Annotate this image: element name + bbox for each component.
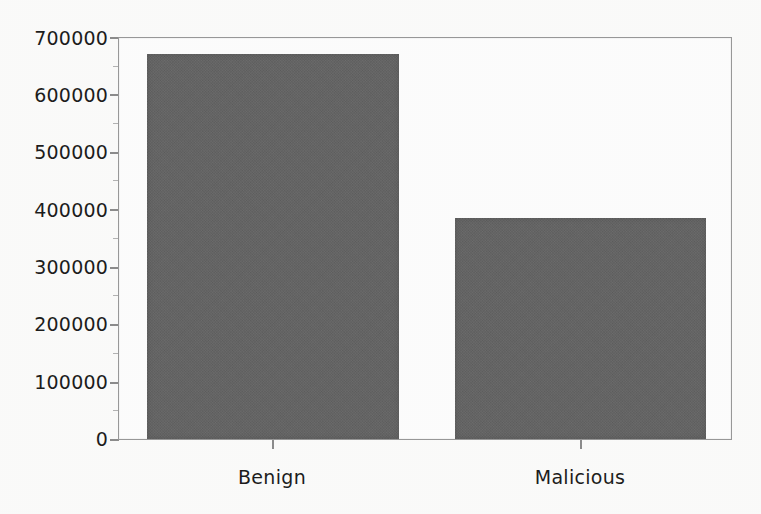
- x-tick-mark-malicious: [580, 440, 582, 449]
- y-tick-label-100000: 100000: [34, 371, 108, 393]
- y-tick-label-400000: 400000: [34, 199, 108, 221]
- bar-malicious: [455, 218, 706, 439]
- y-tick-label-500000: 500000: [34, 141, 108, 163]
- y-tick-label-700000: 700000: [34, 27, 108, 49]
- bar-chart-figure: 700000 600000 500000 400000 300000 20000…: [0, 0, 761, 514]
- y-tick-label-300000: 300000: [34, 256, 108, 278]
- bar-benign: [147, 54, 399, 439]
- y-tick-label-200000: 200000: [34, 313, 108, 335]
- y-tick-label-0: 0: [96, 428, 108, 450]
- x-tick-label-benign: Benign: [238, 466, 306, 488]
- plot-area: [118, 37, 732, 440]
- x-tick-mark-benign: [272, 440, 274, 449]
- y-tick-label-600000: 600000: [34, 84, 108, 106]
- x-tick-label-malicious: Malicious: [535, 466, 626, 488]
- y-axis-labels: 700000 600000 500000 400000 300000 20000…: [0, 0, 108, 514]
